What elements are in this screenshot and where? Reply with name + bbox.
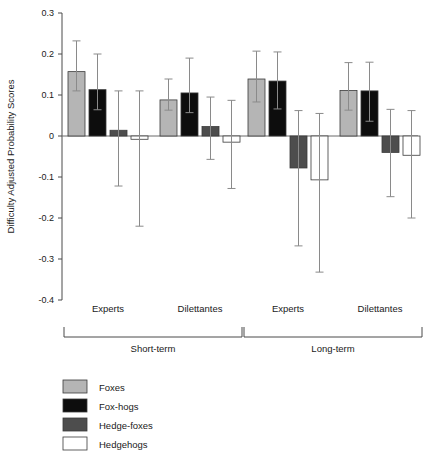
- legend-label-fox-hogs: Fox-hogs: [99, 401, 139, 412]
- error-bar: [408, 111, 416, 218]
- legend-swatch-hedge-foxes: [63, 418, 87, 431]
- x-axis-group-labels: ExpertsDilettantesExpertsDilettantesShor…: [64, 303, 422, 354]
- y-axis-tick-label: -0.1: [38, 172, 54, 182]
- y-axis-tick-label: 0.2: [41, 49, 54, 59]
- y-axis-tick-label: 0.1: [41, 90, 54, 100]
- group-bracket-label: Short-term: [131, 343, 176, 354]
- chart-legend: FoxesFox-hogsHedge-foxesHedgehogs: [63, 380, 153, 450]
- legend-label-hedgehogs: Hedgehogs: [99, 439, 148, 450]
- legend-swatch-foxes: [63, 380, 87, 393]
- x-axis-category-label: Dilettantes: [358, 303, 403, 314]
- group-bracket-label: Long-term: [311, 343, 354, 354]
- chart-figure: 0.30.20.10-0.1-0.2-0.3-0.4Difficulty Adj…: [0, 0, 425, 453]
- y-axis-title: Difficulty Adjusted Probability Scores: [5, 79, 16, 233]
- y-axis-tick-label: -0.4: [38, 295, 54, 305]
- y-axis-tick-label: 0: [49, 131, 54, 141]
- y-axis-tick-label: -0.3: [38, 254, 54, 264]
- x-axis-category-label: Experts: [272, 303, 304, 314]
- group-bracket: [244, 327, 422, 337]
- difficulty-adjusted-probability-chart: 0.30.20.10-0.1-0.2-0.3-0.4Difficulty Adj…: [0, 0, 425, 453]
- plot-area: [62, 41, 420, 272]
- legend-swatch-hedgehogs: [63, 437, 87, 450]
- legend-label-foxes: Foxes: [99, 382, 125, 393]
- x-axis-category-label: Experts: [92, 303, 124, 314]
- legend-label-hedge-foxes: Hedge-foxes: [99, 420, 153, 431]
- group-bracket: [64, 327, 242, 337]
- y-axis-tick-label: -0.2: [38, 213, 54, 223]
- error-bar: [228, 100, 236, 188]
- error-bar: [136, 91, 144, 226]
- legend-swatch-fox-hogs: [63, 399, 87, 412]
- error-bar: [295, 111, 303, 246]
- x-axis-category-label: Dilettantes: [178, 303, 223, 314]
- y-axis: 0.30.20.10-0.1-0.2-0.3-0.4Difficulty Adj…: [5, 8, 62, 305]
- error-bar: [387, 109, 395, 196]
- y-axis-tick-label: 0.3: [41, 8, 54, 18]
- error-bar: [115, 91, 123, 186]
